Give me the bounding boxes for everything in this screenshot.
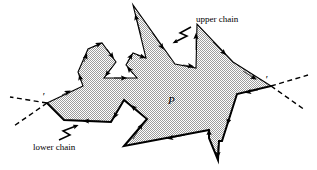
polygon-P: [47, 5, 271, 160]
monotone-polygon-figure: ′ ′ P upper chain lower chain: [0, 0, 317, 170]
right-upper-dashed-line: [271, 75, 308, 86]
left-lower-dashed-line: [14, 103, 47, 126]
lower-chain-callout: lower chain: [33, 126, 76, 152]
polygon-label-P: P: [167, 94, 175, 106]
figure-container: ′ ′ P upper chain lower chain: [0, 0, 317, 170]
left-vertex-prime-mark: ′: [42, 90, 45, 102]
lower-chain-leader-zigzag: [59, 126, 76, 140]
lower-chain-label: lower chain: [33, 142, 76, 152]
upper-chain-leader-zigzag: [175, 27, 191, 42]
polygon-fill: [47, 5, 271, 160]
upper-chain-label: upper chain: [196, 14, 239, 24]
right-lower-dashed-line: [271, 86, 305, 110]
